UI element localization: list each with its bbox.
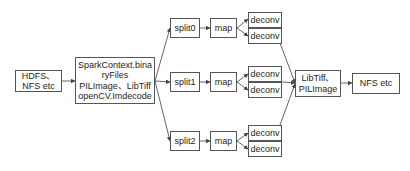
split1-node: split1: [170, 72, 200, 92]
edge-map0-deconv0b: [237, 28, 248, 36]
reader-node: SparkContext.bina ryFiles PILImage、LibTi…: [75, 57, 155, 104]
sink-label: NFS etc: [360, 78, 393, 89]
source-label: HDFS、 NFS etc: [22, 71, 56, 92]
edge-map1-deconv1b: [237, 82, 248, 90]
deconv1a-label: deconv: [250, 69, 279, 80]
edge-map1-deconv1a: [237, 74, 248, 82]
deconv2b-label: deconv: [250, 144, 279, 155]
edge-deconv0-writer: [280, 43, 295, 83]
edge-map0-deconv0a: [237, 19, 248, 28]
map2-node: map: [210, 131, 237, 151]
deconv0b-node: deconv: [248, 28, 282, 44]
deconv2a-node: deconv: [248, 125, 282, 141]
map1-label: map: [215, 77, 233, 88]
deconv0a-label: deconv: [250, 15, 279, 26]
writer-node: LibTiff、 PILImage: [295, 70, 341, 97]
deconv2b-node: deconv: [248, 141, 282, 157]
deconv0b-label: deconv: [250, 31, 279, 42]
deconv1b-label: deconv: [250, 85, 279, 96]
reader-label: SparkContext.bina ryFiles PILImage、LibTi…: [78, 60, 152, 102]
deconv1b-node: deconv: [248, 82, 282, 98]
split2-label: split2: [174, 136, 195, 147]
edge-map2-deconv2a: [237, 133, 248, 141]
split0-label: split0: [174, 23, 195, 34]
split1-label: split1: [174, 77, 195, 88]
edge-reader-split0: [155, 28, 170, 81]
writer-label: LibTiff、 PILImage: [299, 73, 338, 94]
map1-node: map: [210, 72, 237, 92]
split2-node: split2: [170, 131, 200, 151]
edge-reader-split1: [155, 81, 170, 82]
edge-map2-deconv2b: [237, 141, 248, 149]
edge-reader-split2: [155, 81, 170, 141]
deconv1a-node: deconv: [248, 66, 282, 82]
map2-label: map: [215, 136, 233, 147]
source-node: HDFS、 NFS etc: [15, 70, 62, 92]
sink-node: NFS etc: [352, 73, 400, 94]
map0-label: map: [215, 23, 233, 34]
edge-deconv2-writer: [280, 84, 295, 125]
map0-node: map: [210, 18, 237, 38]
deconv2a-label: deconv: [250, 128, 279, 139]
split0-node: split0: [170, 18, 200, 38]
edge-deconv1-writer: [282, 82, 295, 83]
deconv0a-node: deconv: [248, 12, 282, 28]
